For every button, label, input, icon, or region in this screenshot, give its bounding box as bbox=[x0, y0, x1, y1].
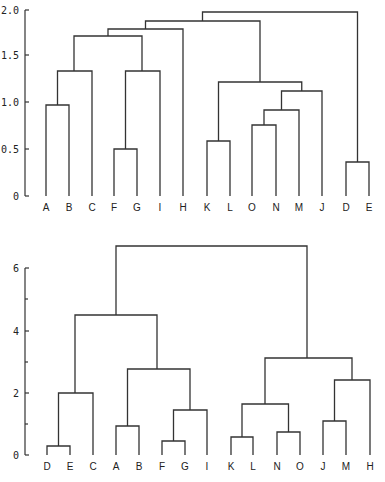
leaf-label: L bbox=[227, 202, 233, 213]
leaf-label: M bbox=[342, 461, 350, 472]
top-leaf-labels: A B C F G I H K L O N M J D E bbox=[43, 202, 373, 213]
leaf-label: C bbox=[88, 202, 95, 213]
leaf-label: K bbox=[228, 461, 235, 472]
top-branches bbox=[46, 12, 369, 196]
leaf-label: N bbox=[272, 202, 279, 213]
leaf-label: I bbox=[206, 461, 209, 472]
leaf-label: D bbox=[43, 461, 50, 472]
leaf-label: L bbox=[250, 461, 256, 472]
leaf-label: F bbox=[111, 202, 117, 213]
bottom-dendrogram: 6 4 2 0 bbox=[13, 246, 374, 472]
leaf-label: K bbox=[204, 202, 211, 213]
leaf-label: B bbox=[66, 202, 73, 213]
leaf-label: H bbox=[366, 461, 373, 472]
leaf-label: M bbox=[295, 202, 303, 213]
leaf-label: A bbox=[43, 202, 50, 213]
dendrogram-figure: 2.0 1.5 1.0 0.5 0 bbox=[0, 0, 385, 482]
top-dendrogram: 2.0 1.5 1.0 0.5 0 bbox=[1, 5, 373, 213]
tick-label: 2.0 bbox=[1, 5, 19, 16]
leaf-label: F bbox=[159, 461, 165, 472]
bottom-leaf-labels: D E C A B F G I K L N O J M H bbox=[43, 461, 373, 472]
leaf-label: G bbox=[181, 461, 189, 472]
top-y-axis: 2.0 1.5 1.0 0.5 0 bbox=[1, 5, 29, 202]
bottom-y-axis: 6 4 2 0 bbox=[13, 263, 29, 461]
bottom-branches bbox=[47, 246, 370, 455]
leaf-label: A bbox=[113, 461, 120, 472]
tick-label: 2 bbox=[13, 388, 19, 399]
leaf-label: H bbox=[179, 202, 186, 213]
leaf-label: N bbox=[273, 461, 280, 472]
tick-label: 0 bbox=[13, 191, 19, 202]
leaf-label: C bbox=[89, 461, 96, 472]
tick-label: 6 bbox=[13, 263, 19, 274]
leaf-label: I bbox=[159, 202, 162, 213]
leaf-label: O bbox=[248, 202, 256, 213]
tick-label: 1.5 bbox=[1, 50, 19, 61]
tick-label: 0.5 bbox=[1, 144, 19, 155]
tick-label: 1.0 bbox=[1, 97, 19, 108]
leaf-label: E bbox=[67, 461, 74, 472]
leaf-label: D bbox=[342, 202, 349, 213]
tick-label: 0 bbox=[13, 450, 19, 461]
leaf-label: O bbox=[296, 461, 304, 472]
leaf-label: J bbox=[320, 202, 325, 213]
leaf-label: J bbox=[321, 461, 326, 472]
leaf-label: E bbox=[366, 202, 373, 213]
leaf-label: G bbox=[133, 202, 141, 213]
leaf-label: B bbox=[136, 461, 143, 472]
tick-label: 4 bbox=[13, 326, 19, 337]
